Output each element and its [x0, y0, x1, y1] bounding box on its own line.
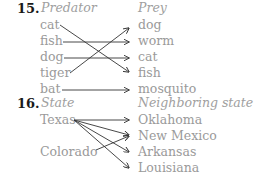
arrow-cat-fish	[60, 25, 129, 72]
mapping-arrows	[0, 0, 261, 185]
